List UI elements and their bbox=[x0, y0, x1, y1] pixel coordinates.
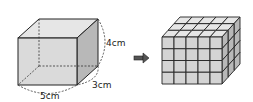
cuboid: 4cm 3cm 5cm bbox=[18, 19, 125, 101]
right-arrow-icon bbox=[134, 53, 149, 63]
height-label: 4cm bbox=[106, 38, 125, 48]
depth-label: 3cm bbox=[92, 80, 111, 90]
unit-cube-stack bbox=[162, 17, 240, 84]
height-dimension-curve bbox=[98, 19, 105, 66]
cuboid-front-face bbox=[18, 38, 77, 85]
diagram-canvas: 4cm 3cm 5cm bbox=[0, 0, 253, 102]
length-label: 5cm bbox=[40, 91, 59, 101]
